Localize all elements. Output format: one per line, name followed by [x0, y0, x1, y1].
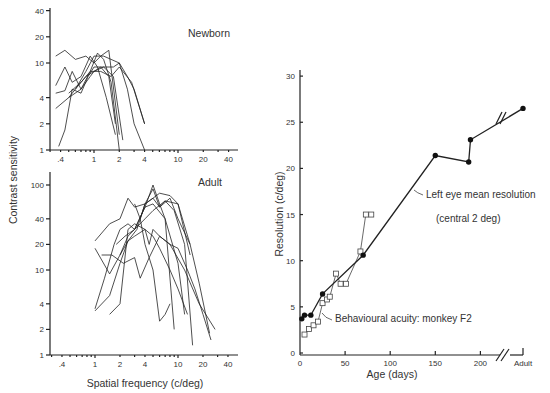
contrast-sensitivity-ylabel: Contrast sensitivity — [7, 135, 19, 224]
resolution-ylabel: Resolution (c/deg) — [273, 171, 285, 256]
sensitivity-curve — [56, 67, 116, 124]
adult-curves — [95, 185, 215, 345]
y-tick-label: 4 — [40, 94, 45, 103]
filled-circle-marker — [320, 291, 325, 296]
x-tick-label: 0 — [298, 359, 303, 368]
filled-circle-marker — [308, 312, 313, 317]
x-tick-label: .4 — [57, 155, 64, 164]
y-tick-label: 2 — [40, 120, 45, 129]
x-tick-label: 100 — [384, 359, 398, 368]
resolution-chart: 051015202530050100150200Adult Resolution… — [273, 70, 536, 380]
left-eye-annotation: Left eye mean resolution — [426, 189, 536, 200]
open-square-marker — [327, 294, 332, 299]
open-square-marker — [316, 319, 321, 324]
filled-circle-marker — [433, 153, 438, 158]
x-tick-label: 2 — [118, 360, 123, 369]
filled-circle-marker — [520, 106, 525, 111]
y-tick-label: 1 — [40, 146, 45, 155]
filled-circle-marker — [360, 252, 365, 257]
age-xlabel: Age (days) — [367, 368, 418, 380]
y-tick-label: 15 — [286, 211, 295, 220]
newborn-title: Newborn — [188, 27, 230, 39]
open-square-marker — [334, 271, 339, 276]
y-tick-label: 20 — [35, 33, 44, 42]
y-tick-label: 10 — [35, 59, 44, 68]
open-square-marker — [344, 281, 349, 286]
central-deg-annotation: (central 2 deg) — [436, 213, 500, 224]
sensitivity-curve — [69, 67, 145, 124]
behavioural-leader-icon — [322, 313, 332, 320]
x-tick-label: 150 — [429, 359, 443, 368]
x-tick-label: 40 — [224, 155, 233, 164]
x-tick-label: 2 — [117, 155, 122, 164]
y-tick-label: 4 — [40, 300, 45, 309]
x-tick-label: 4 — [142, 155, 147, 164]
figure: 124102040.4124102040 Newborn 12410204010… — [0, 0, 550, 393]
x-tick-label-adult: Adult — [514, 359, 533, 368]
y-tick-label: 0 — [291, 349, 296, 358]
x-tick-label: 50 — [341, 359, 350, 368]
y-tick-label: 20 — [35, 240, 44, 249]
filled-circle-marker — [468, 137, 473, 142]
x-tick-label: 200 — [474, 359, 488, 368]
x-tick-label: 10 — [174, 360, 183, 369]
behavioural-acuity-annotation: Behavioural acuity: monkey F2 — [335, 313, 472, 324]
y-tick-label: 5 — [291, 303, 296, 312]
y-tick-label: 20 — [286, 164, 295, 173]
y-tick-label: 10 — [286, 257, 295, 266]
y-tick-label: 10 — [35, 266, 44, 275]
x-tick-label: 20 — [199, 360, 208, 369]
sensitivity-curve — [120, 229, 188, 314]
open-square-marker — [302, 332, 307, 337]
x-tick-label: .4 — [59, 360, 66, 369]
newborn-chart: 124102040.4124102040 Newborn — [35, 7, 238, 164]
y-tick-label: 40 — [35, 215, 44, 224]
left-eye-leader-icon — [414, 190, 423, 195]
y-tick-label: 2 — [40, 325, 45, 334]
newborn-curves — [56, 50, 145, 150]
spatial-frequency-xlabel: Spatial frequency (c/deg) — [87, 377, 204, 389]
x-tick-label: 1 — [93, 360, 98, 369]
y-tick-label: 25 — [286, 118, 295, 127]
y-tick-label: 30 — [286, 72, 295, 81]
filled-circle-marker — [302, 312, 307, 317]
sensitivity-curve — [110, 224, 211, 340]
sensitivity-curve — [135, 204, 170, 321]
x-tick-label: 40 — [224, 360, 233, 369]
y-tick-label: 1 — [40, 351, 45, 360]
adult-chart: 124102040100.4124102040 Adult — [31, 172, 238, 369]
y-tick-label: 40 — [35, 7, 44, 16]
open-square-marker — [338, 281, 343, 286]
adult-title: Adult — [198, 176, 222, 188]
x-tick-label: 4 — [143, 360, 148, 369]
filled-circle-marker — [466, 159, 471, 164]
sensitivity-curve — [102, 236, 216, 329]
x-tick-label: 20 — [199, 155, 208, 164]
x-tick-label: 1 — [92, 155, 97, 164]
adult-axes: 124102040100.4124102040 — [31, 172, 238, 369]
open-square-marker — [369, 212, 374, 217]
y-tick-label: 100 — [31, 181, 45, 190]
x-tick-label: 10 — [174, 155, 183, 164]
open-square-marker — [363, 212, 368, 217]
